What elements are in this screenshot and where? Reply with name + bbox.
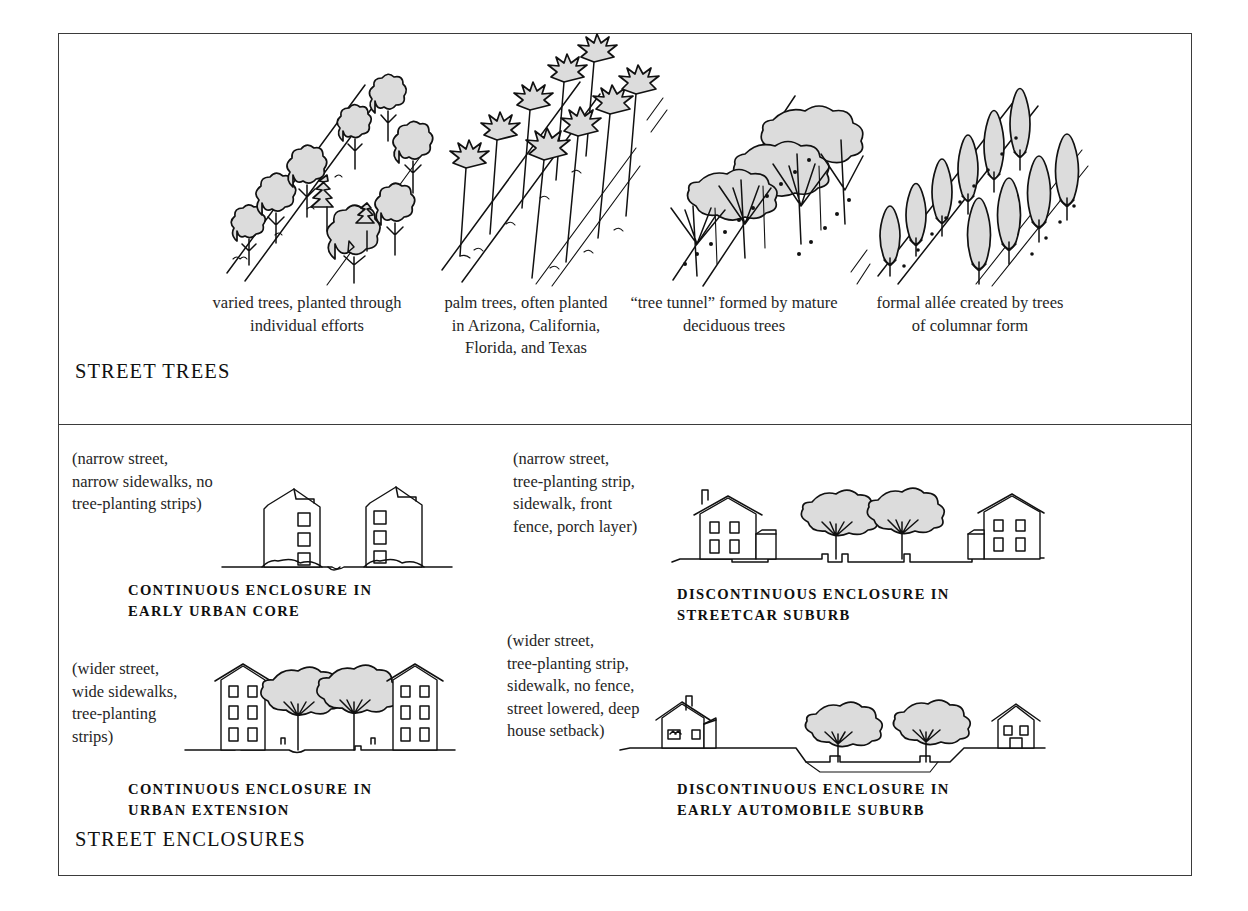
early-automobile-suburb-elevation (620, 690, 1045, 780)
section-title-street-enclosures: STREET ENCLOSURES (75, 828, 306, 851)
figure-section-divider (58, 424, 1192, 425)
enclosure-title-early-urban-core: CONTINUOUS ENCLOSURE IN EARLY URBAN CORE (128, 580, 372, 622)
enclosure-title-streetcar-suburb: DISCONTINUOUS ENCLOSURE IN STREETCAR SUB… (677, 584, 950, 626)
caption-columnar-allee: formal allée created by trees of columna… (876, 292, 1064, 337)
caption-palm-trees: palm trees, often planted in Arizona, Ca… (437, 292, 615, 360)
palm-trees-illustration (440, 48, 640, 286)
streetcar-suburb-elevation (672, 462, 1044, 577)
urban-extension-elevation (185, 640, 455, 765)
tree-tunnel-illustration (645, 58, 870, 286)
columnar-allee-illustration (868, 62, 1090, 286)
enclosure-title-urban-extension: CONTINUOUS ENCLOSURE IN URBAN EXTENSION (128, 779, 372, 821)
section-title-street-trees: STREET TREES (75, 360, 230, 383)
early-urban-core-elevation (222, 455, 452, 575)
enclosure-title-early-automobile-suburb: DISCONTINUOUS ENCLOSURE IN EARLY AUTOMOB… (677, 779, 950, 821)
parenthetical-streetcar-suburb: (narrow street, tree-planting strip, sid… (513, 448, 693, 538)
figure-page: varied trees, planted through individual… (0, 0, 1248, 911)
caption-varied-trees: varied trees, planted through individual… (207, 292, 407, 337)
caption-tree-tunnel: “tree tunnel” formed by mature deciduous… (629, 292, 839, 337)
varied-trees-illustration (215, 45, 430, 285)
